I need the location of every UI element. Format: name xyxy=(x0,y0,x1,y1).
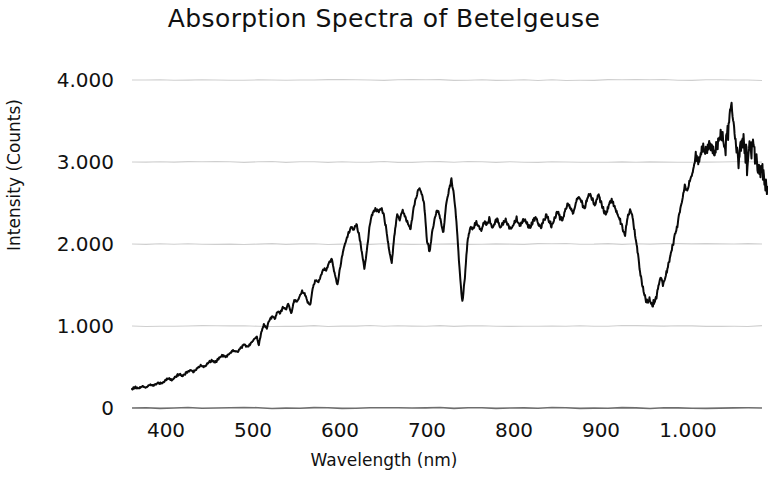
gridline-4000 xyxy=(132,80,762,81)
x-axis-line xyxy=(132,408,762,409)
plot-area xyxy=(0,0,768,477)
chart-figure: Absorption Spectra of Betelgeuse Intensi… xyxy=(0,0,768,477)
gridline-3000 xyxy=(132,162,762,163)
gridline-1000 xyxy=(132,326,762,327)
spectrum-line xyxy=(132,103,768,390)
gridline-2000 xyxy=(132,244,762,245)
gridlines xyxy=(132,80,762,409)
